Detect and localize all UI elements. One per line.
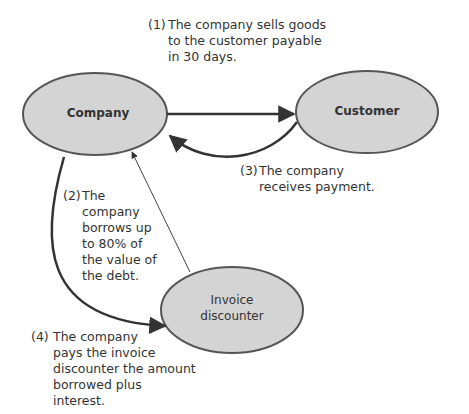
step-1-line: The company sells goods (168, 17, 326, 33)
arrow-payment (170, 122, 297, 157)
discounter-label-line1: Invoice (177, 292, 287, 308)
step-4-text: The company pays the invoice discounter … (53, 329, 196, 409)
step-1-number: (1) (148, 17, 166, 33)
customer-label: Customer (312, 104, 422, 118)
step-4-number: (4) (31, 329, 49, 345)
step-3-line: The company (259, 163, 375, 179)
discounter-label-line2: discounter (177, 308, 287, 324)
step-2-line: to 80% of (82, 236, 157, 252)
company-label: Company (43, 106, 153, 120)
step-4-line: pays the invoice (53, 345, 196, 361)
step-2-line: the value of (82, 252, 157, 268)
step-4-line: discounter the amount (53, 361, 196, 377)
step-2-line: The (82, 188, 157, 204)
step-4-line: The company (53, 329, 196, 345)
step-2-number: (2) (63, 188, 81, 204)
step-1-line: in 30 days. (168, 49, 326, 65)
step-2-line: the debt. (82, 268, 157, 284)
step-1-text: The company sells goods to the customer … (168, 17, 326, 65)
step-2-line: company (82, 204, 157, 220)
step-4-line: borrowed plus (53, 377, 196, 393)
step-3-number: (3) (240, 163, 258, 179)
step-2-line: borrows up (82, 220, 157, 236)
step-3-line: receives payment. (259, 179, 375, 195)
step-3-text: The company receives payment. (259, 163, 375, 195)
discounter-label: Invoice discounter (177, 292, 287, 324)
step-2-text: The company borrows up to 80% of the val… (82, 188, 157, 284)
step-1-line: to the customer payable (168, 33, 326, 49)
step-4-line: interest. (53, 393, 196, 409)
